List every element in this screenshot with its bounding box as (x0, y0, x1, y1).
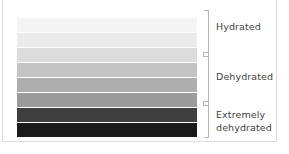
axis-cap-bottom (204, 137, 209, 138)
color-swatch-stack (17, 18, 197, 137)
color-band-1 (17, 18, 197, 33)
color-band-5 (17, 78, 197, 93)
hydration-color-chart: HydratedDehydratedExtremely dehydrated (0, 0, 289, 154)
color-band-8 (17, 123, 197, 137)
color-band-2 (17, 33, 197, 48)
color-band-3 (17, 48, 197, 63)
axis-tick-2 (203, 101, 209, 106)
zone-axis (203, 10, 210, 138)
axis-line (208, 10, 209, 138)
zone-label-1: Hydrated (216, 20, 261, 33)
zone-label-2: Dehydrated (216, 70, 273, 83)
axis-tick-1 (203, 52, 209, 57)
zone-label-3: Extremely dehydrated (216, 108, 272, 134)
color-band-7 (17, 108, 197, 123)
color-band-4 (17, 63, 197, 78)
color-band-6 (17, 93, 197, 108)
axis-cap-top (204, 10, 209, 11)
